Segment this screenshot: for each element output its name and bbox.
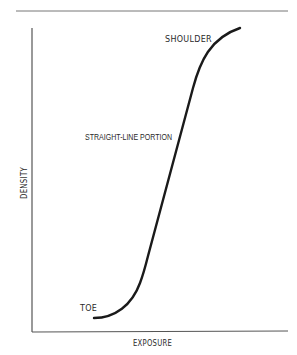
shoulder-label: SHOULDER xyxy=(165,35,212,44)
x-axis xyxy=(32,331,288,332)
characteristic-curve-chart: SHOULDER STRAIGHT-LINE PORTION TOE EXPOS… xyxy=(0,0,297,355)
x-axis-label: EXPOSURE xyxy=(133,339,172,348)
y-axis-label: DENSITY xyxy=(20,167,29,199)
straight-line-portion-label: STRAIGHT-LINE PORTION xyxy=(85,132,172,142)
characteristic-curve xyxy=(94,28,240,318)
toe-label: TOE xyxy=(79,304,97,313)
